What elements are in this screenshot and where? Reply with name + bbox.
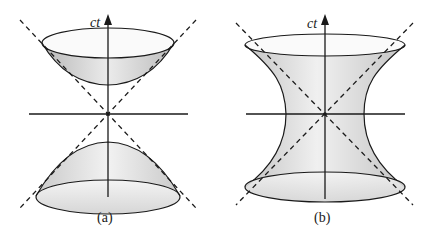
panel-caption-b: (b) bbox=[314, 210, 331, 226]
origin-dot bbox=[323, 112, 327, 116]
ct-axis-label: ct bbox=[307, 16, 318, 31]
panel-a: ct (a) bbox=[20, 14, 196, 226]
ct-axis-arrow-icon bbox=[321, 14, 329, 25]
origin-dot bbox=[106, 112, 110, 116]
figure-canvas: ct (a) ct (b) bbox=[0, 0, 428, 237]
panel-caption-a: (a) bbox=[97, 210, 113, 226]
panel-b: ct (b) bbox=[236, 14, 413, 226]
ct-axis-label: ct bbox=[90, 15, 101, 30]
ct-axis-arrow-icon bbox=[104, 14, 112, 25]
